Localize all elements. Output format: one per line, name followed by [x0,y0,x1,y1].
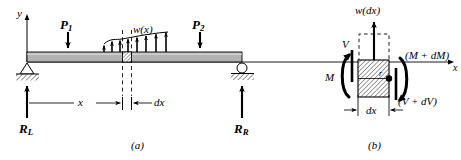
moment-M-label: M [325,72,334,83]
roller-support-right [231,63,254,80]
shear-V-label: V [342,39,349,50]
P2-base: P [192,17,200,32]
fbd-dimension-dx-label: dx [366,105,376,116]
distributed-load-w-of-x [104,32,168,52]
dimension-dx-label: dx [154,97,164,108]
P2-subscript: 2 [200,23,204,33]
P1-subscript: 1 [68,23,72,33]
reaction-RL-label: RL [19,122,33,137]
beam-theory-figure: y x P1 P2 w(x) RL RR x dx (a) w(dx) V (V… [0,0,461,160]
point-load-P1-label: P1 [60,18,72,33]
dimension-x-label: x [78,97,83,108]
x-axis-label: x [453,63,457,73]
moment-M-plus-dM-label: (M + dM) [405,50,449,61]
caption-a: (a) [131,139,144,151]
beam [27,52,242,62]
point-load-P2-label: P2 [192,18,204,33]
reaction-RR-label: RR [234,122,249,137]
caption-b: (b) [368,139,381,151]
dimension-line-x [29,97,123,110]
differential-element-dx [123,30,132,96]
shear-V-plus-dV-label: (V + dV) [398,96,437,107]
fbd-distributed-load-label: w(dx) [355,5,380,16]
radius-r-label: r [379,70,382,78]
y-axis-label: y [17,8,22,19]
moment-M-curved-arrow [342,53,351,97]
dimension-line-dx [132,97,153,110]
RL-base: R [19,121,28,136]
pin-support-left [16,63,39,81]
RL-subscript: L [28,127,33,137]
P1-base: P [60,17,68,32]
RR-base: R [234,121,243,136]
distributed-load-label: w(x) [133,24,153,35]
fbd-element-block [358,60,392,97]
fbd-distributed-load-arrow [359,22,389,62]
RR-subscript: R [243,127,249,137]
